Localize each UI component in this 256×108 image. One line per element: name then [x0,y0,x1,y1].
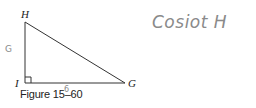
handwritten-prompt: Cosiot H [152,12,227,32]
figure-caption: Figure 15–60 [20,88,82,100]
side-HG-hypotenuse [25,22,125,83]
vertex-label-H: H [20,8,30,20]
right-angle-marker [25,77,31,83]
handwritten-side-mark-left: G [5,44,12,54]
vertex-label-G: G [128,77,136,89]
